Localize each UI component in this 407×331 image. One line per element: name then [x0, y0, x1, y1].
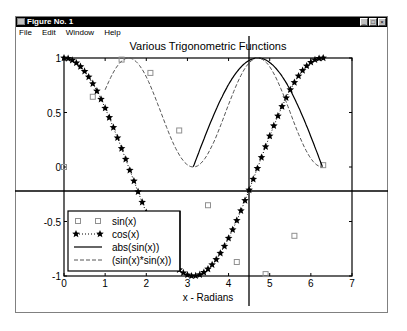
- cos-star-marker: [274, 112, 282, 119]
- cos-star-marker: [217, 249, 225, 256]
- sin-marker: [206, 203, 211, 208]
- cos-star-marker: [122, 155, 130, 162]
- legend-border-right: [179, 211, 180, 271]
- x-tick-label: 0: [61, 278, 67, 289]
- y-tick-label: -1: [52, 271, 61, 282]
- cos-star-marker: [278, 103, 286, 110]
- cos-star-marker: [221, 242, 229, 249]
- cos-star-marker: [93, 87, 101, 94]
- x-tick-label: 6: [308, 278, 314, 289]
- cos-star-marker: [233, 216, 241, 223]
- cos-star-marker: [266, 132, 274, 139]
- x-tick-label: 2: [144, 278, 150, 289]
- legend-label: (sin(x)*sin(x)): [112, 255, 171, 266]
- cos-star-marker: [106, 114, 114, 121]
- x-tick-label: 4: [226, 278, 232, 289]
- cos-star-marker: [262, 143, 270, 150]
- cos-star-marker: [126, 166, 134, 173]
- cos-star-marker: [229, 226, 237, 233]
- sin-marker: [292, 233, 297, 238]
- cos-star-marker: [85, 73, 93, 80]
- chart-title: Various Trigonometric Functions: [130, 40, 287, 52]
- cos-star-marker: [97, 95, 105, 102]
- cos-star-marker: [89, 80, 97, 87]
- plot-area[interactable]: 01234567-1-0.500.51Various Trigonometric…: [0, 0, 407, 331]
- cos-star-marker: [237, 207, 245, 214]
- cos-star-marker: [101, 104, 109, 111]
- x-tick-label: 3: [185, 278, 191, 289]
- legend-label: sin(x): [112, 216, 136, 227]
- cos-star-marker: [270, 122, 278, 129]
- cos-star-marker: [118, 145, 126, 152]
- y-tick-label: 1: [55, 53, 61, 64]
- legend-label: abs(sin(x)): [112, 242, 159, 253]
- abs-sin-line: [193, 58, 322, 167]
- cos-star-marker: [212, 255, 220, 262]
- sin-marker: [177, 128, 182, 133]
- cos-star-marker: [138, 198, 146, 205]
- cos-star-marker: [225, 234, 233, 241]
- cos-star-marker: [114, 134, 122, 141]
- sin-squared-line: [105, 58, 322, 167]
- cos-star-marker: [130, 177, 138, 184]
- cos-star-marker: [254, 164, 262, 171]
- x-axis-label: x - Radians: [183, 292, 234, 303]
- cos-star-marker: [258, 154, 266, 161]
- sin-marker: [90, 94, 95, 99]
- cos-star-marker: [110, 124, 118, 131]
- cos-star-marker: [291, 79, 299, 86]
- cos-star-marker: [250, 175, 258, 182]
- cos-star-marker: [241, 197, 249, 204]
- x-tick-label: 5: [267, 278, 273, 289]
- x-tick-label: 7: [349, 278, 355, 289]
- y-tick-label: -0.5: [44, 217, 62, 228]
- sin-marker: [148, 70, 153, 75]
- y-tick-label: 0: [55, 162, 61, 173]
- legend-label: cos(x): [112, 229, 139, 240]
- sin-marker: [234, 260, 239, 265]
- y-tick-label: 0.5: [47, 108, 61, 119]
- x-tick-label: 1: [102, 278, 108, 289]
